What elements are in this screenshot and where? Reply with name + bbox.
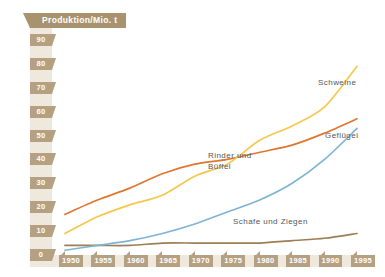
- x-tick-1965: 1965: [156, 255, 180, 267]
- x-tick-1950: 1950: [59, 255, 83, 267]
- y-tick-50: 50: [30, 130, 52, 142]
- y-tick-20: 20: [30, 201, 52, 213]
- series-label-gefluegel: Geflügel: [325, 131, 358, 142]
- series-label-schweine: Schweine: [318, 78, 356, 89]
- x-tick-1985: 1985: [286, 255, 310, 267]
- series-line-gefl-gel: [65, 128, 357, 250]
- x-tick-1975: 1975: [221, 255, 245, 267]
- y-tick-70: 70: [30, 82, 52, 94]
- y-tick-10: 10: [30, 225, 52, 237]
- x-tick-1995: 1995: [351, 255, 375, 267]
- x-tick-1960: 1960: [124, 255, 148, 267]
- series-label-schafe: Schafe und Ziegen: [233, 217, 308, 228]
- y-tick-90: 90: [30, 34, 52, 46]
- chart-container: Produktion/Mio. t 9080706050403020100 19…: [0, 0, 385, 277]
- y-tick-60: 60: [30, 106, 52, 118]
- y-tick-40: 40: [30, 153, 52, 165]
- x-tick-1980: 1980: [254, 255, 278, 267]
- y-tick-80: 80: [30, 58, 52, 70]
- y-tick-30: 30: [30, 177, 52, 189]
- chart-title: Produktion/Mio. t: [30, 13, 126, 28]
- x-tick-1970: 1970: [189, 255, 213, 267]
- series-label-rinder-line1: Rinder und: [208, 151, 252, 162]
- y-tick-0: 0: [30, 249, 52, 261]
- x-tick-1955: 1955: [91, 255, 115, 267]
- series-line-schweine: [65, 66, 357, 233]
- series-label-rinder-line2: Büffel: [208, 162, 231, 173]
- x-tick-1990: 1990: [319, 255, 343, 267]
